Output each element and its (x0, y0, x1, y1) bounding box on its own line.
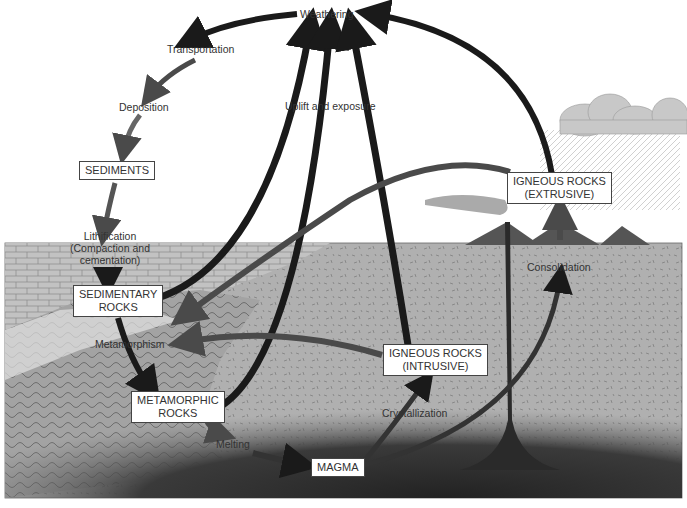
label-weathering: Weathering (300, 8, 354, 20)
rock-cycle-diagram: Weathering Transportation Deposition Upl… (0, 0, 687, 508)
box-igneous-extrusive: IGNEOUS ROCKS (EXTRUSIVE) (507, 172, 612, 204)
lithification-line-1: Lithification (65, 230, 155, 242)
volcanic-smoke (425, 195, 508, 215)
clouds (560, 94, 687, 136)
box-metamorphic-rocks: METAMORPHIC ROCKS (131, 391, 225, 423)
igneous-extrusive-line-1: IGNEOUS ROCKS (513, 175, 606, 188)
label-consolidation: Consolidation (527, 261, 591, 273)
metamorphic-line-1: METAMORPHIC (137, 394, 219, 407)
sedimentary-line-2: ROCKS (79, 301, 157, 314)
box-sediments: SEDIMENTS (79, 161, 155, 180)
igneous-extrusive-line-2: (EXTRUSIVE) (513, 188, 606, 201)
igneous-intrusive-line-2: (INTRUSIVE) (389, 360, 482, 373)
igneous-intrusive-line-1: IGNEOUS ROCKS (389, 347, 482, 360)
lithification-line-3: cementation) (65, 254, 155, 266)
box-igneous-intrusive: IGNEOUS ROCKS (INTRUSIVE) (383, 344, 488, 376)
label-lithification: Lithification (Compaction and cementatio… (65, 230, 155, 266)
box-sedimentary-rocks: SEDIMENTARY ROCKS (73, 285, 163, 317)
label-melting: Melting (216, 438, 250, 450)
label-crystallization: Crystallization (382, 407, 447, 419)
label-metamorphism: Metamorphism (95, 338, 164, 350)
label-transportation: Transportation (167, 43, 234, 55)
box-magma: MAGMA (311, 458, 365, 477)
metamorphic-line-2: ROCKS (137, 407, 219, 420)
magma-chamber (5, 380, 682, 498)
label-deposition: Deposition (119, 101, 169, 113)
lithification-line-2: (Compaction and (65, 242, 155, 254)
label-uplift: Uplift and exposure (285, 100, 375, 112)
sedimentary-line-1: SEDIMENTARY (79, 288, 157, 301)
